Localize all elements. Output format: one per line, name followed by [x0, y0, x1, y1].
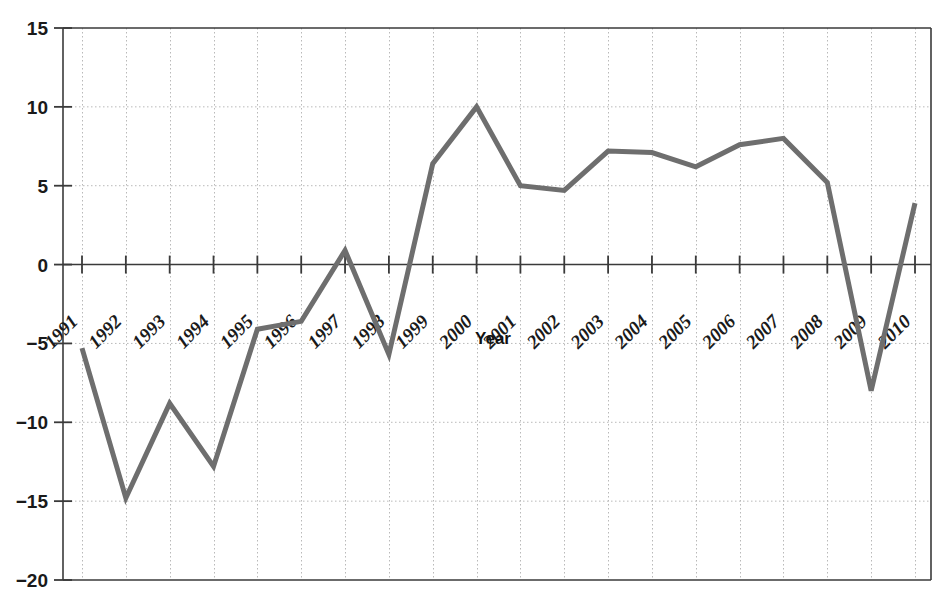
y-axis-tick-label: −10 [16, 412, 48, 433]
x-axis-tick-label: 1992 [84, 310, 126, 352]
y-axis-tick-label: 15 [27, 18, 49, 39]
y-axis-tick-label: −20 [16, 570, 48, 591]
x-axis-title: Year [475, 329, 511, 348]
grid-lines [63, 28, 931, 580]
x-axis-tick-label: 2002 [522, 310, 565, 353]
x-axis-tick-label: 2010 [872, 310, 915, 353]
y-axis-tick-label: 5 [37, 176, 48, 197]
x-axis-tick-label: 2009 [829, 310, 872, 353]
x-axis-tick-label: 2008 [785, 310, 828, 353]
y-axis-tick-label: −15 [16, 491, 49, 512]
data-series-line [82, 107, 915, 498]
x-axis-tick-label: 1997 [303, 309, 346, 352]
line-chart: 151050−5−10−15−20 1991199219931994199519… [0, 0, 946, 600]
x-axis-tick-label: 1994 [172, 311, 214, 353]
x-axis-tick-label: 1993 [128, 311, 170, 353]
y-axis-tick-label: 0 [37, 255, 48, 276]
x-axis-tick-label: 2004 [609, 311, 651, 353]
x-axis-tick-label: 2000 [434, 310, 477, 353]
series-line [82, 107, 915, 498]
y-axis-tick-label: 10 [27, 97, 48, 118]
x-axis-tick-label: 1996 [259, 310, 301, 352]
x-axis-tick-label: 2007 [741, 309, 784, 352]
axes [54, 28, 931, 580]
x-axis-tick-label: 2003 [566, 311, 608, 353]
x-axis-tick-label: 2005 [653, 310, 696, 353]
chart-container: 151050−5−10−15−20 1991199219931994199519… [0, 0, 946, 600]
x-axis-tick-label: 2006 [697, 310, 740, 353]
y-axis-tick-labels: 151050−5−10−15−20 [16, 18, 49, 591]
